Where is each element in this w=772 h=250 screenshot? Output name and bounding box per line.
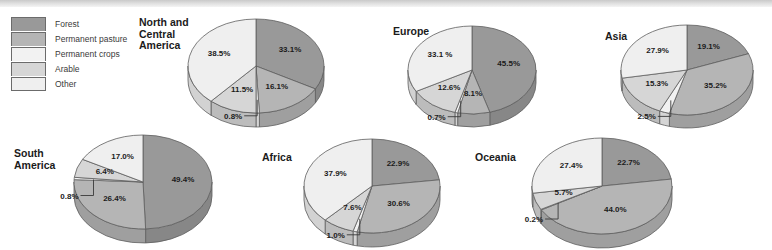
pie-slice-label: 5.7% bbox=[554, 188, 572, 197]
pie-slice-label: 44.0% bbox=[604, 205, 627, 214]
pie-slice-label: 22.7% bbox=[617, 158, 640, 167]
pie-top-face bbox=[532, 138, 672, 234]
pie-svg-oceania: 22.7%44.0%0.2%5.7%27.4% bbox=[0, 0, 772, 250]
pie-slice-label: 27.4% bbox=[560, 161, 583, 170]
pie-slice-label: 0.2% bbox=[525, 215, 543, 224]
pie-chart-oceania: 22.7%44.0%0.2%5.7%27.4%Oceania bbox=[0, 0, 772, 250]
pie-chart-title-oceania: Oceania bbox=[475, 152, 516, 164]
